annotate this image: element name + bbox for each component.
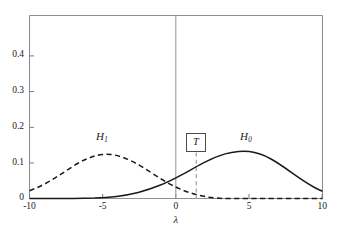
curve-label-h0: H0 xyxy=(240,131,252,142)
x-tick-label-0: 0 xyxy=(162,202,190,212)
x-tick-label-10: 10 xyxy=(308,202,336,212)
y-tick-label-0-2: 0.2 xyxy=(0,122,24,132)
x-tick-label-5: 5 xyxy=(235,202,263,212)
curve-label-h1-base: H xyxy=(96,130,104,142)
x-axis-title: λ xyxy=(162,215,190,226)
threshold-label-box: T xyxy=(186,133,206,152)
curve-label-h0-base: H xyxy=(240,130,248,142)
chart-figure: 0 0.1 0.2 0.3 0.4 -10 -5 0 5 10 λ H1 H0 … xyxy=(0,0,338,238)
curve-label-h0-sub: 0 xyxy=(248,136,252,144)
curve-label-h1: H1 xyxy=(96,131,108,142)
y-tick-label-0-1: 0.1 xyxy=(0,158,24,168)
threshold-label-text: T xyxy=(193,137,199,148)
curve-label-h1-sub: 1 xyxy=(104,136,108,144)
y-tick-label-0-3: 0.3 xyxy=(0,86,24,96)
x-tick-label-minus-5: -5 xyxy=(89,202,117,212)
x-tick-label-minus-10: -10 xyxy=(16,202,44,212)
y-axis-ticks xyxy=(30,56,35,199)
y-tick-label-0-4: 0.4 xyxy=(0,50,24,60)
